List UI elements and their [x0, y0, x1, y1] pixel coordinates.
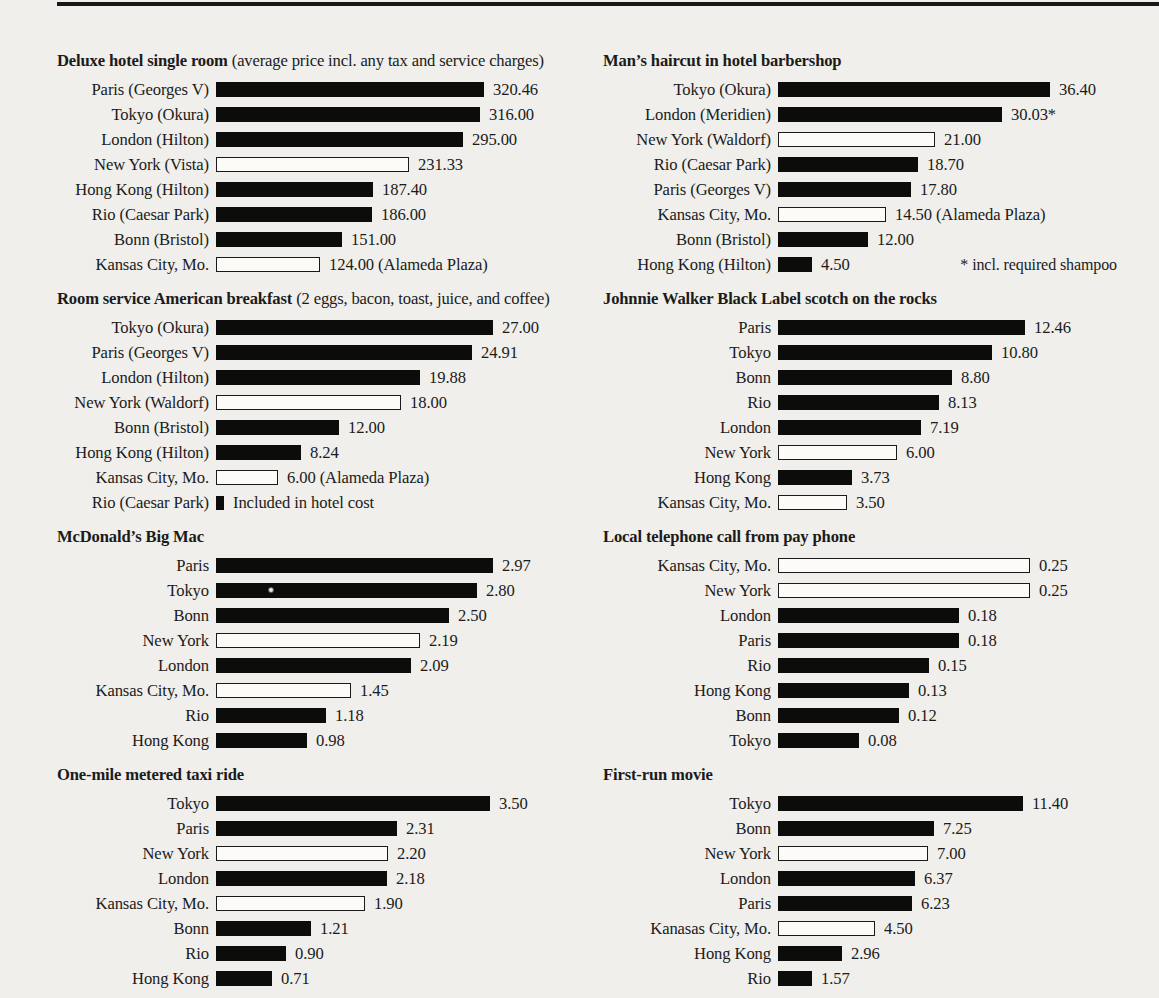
bar-row: London0.18	[603, 603, 1159, 628]
bar-open	[216, 846, 388, 861]
value-label: 0.25	[1039, 556, 1068, 576]
row-label: Paris	[603, 894, 771, 914]
value-label: 21.00	[944, 130, 981, 150]
bar-row: Hong Kong (Hilton)4.50* incl. required s…	[603, 252, 1159, 277]
value-label: 2.09	[420, 656, 449, 676]
value-label: 1.57	[821, 969, 850, 989]
bar-filled	[216, 107, 480, 122]
value-label: 0.13	[918, 681, 947, 701]
value-label: 18.70	[927, 155, 964, 175]
value-label: 151.00	[351, 230, 396, 250]
bar-row: Paris6.23	[603, 891, 1159, 916]
value-label: 3.73	[861, 468, 890, 488]
bar-filled	[216, 558, 493, 573]
row-label: New York (Vista)	[57, 155, 209, 175]
row-label: Tokyo	[603, 343, 771, 363]
value-label: 14.50 (Alameda Plaza)	[895, 205, 1045, 225]
bar-filled	[778, 708, 899, 723]
page-top-rule	[57, 2, 1159, 6]
value-label: 316.00	[489, 105, 534, 125]
value-label: 187.40	[382, 180, 427, 200]
bar-filled	[216, 946, 286, 961]
bar-open	[216, 157, 409, 172]
row-label: London	[603, 418, 771, 438]
row-label: Bonn (Bristol)	[57, 230, 209, 250]
row-label: Kansas City, Mo.	[603, 493, 771, 513]
chart-first-run-movie: First-run movieTokyo11.40Bonn7.25New Yor…	[603, 764, 1159, 991]
row-label: Tokyo	[603, 794, 771, 814]
bar-row: New York (Waldorf)18.00	[57, 390, 575, 415]
value-label: 18.00	[410, 393, 447, 413]
row-label: Rio	[603, 969, 771, 989]
value-label: 30.03*	[1011, 105, 1056, 125]
bar-filled	[778, 658, 929, 673]
bar-row: Tokyo3.50	[57, 791, 575, 816]
bar-row: London7.19	[603, 415, 1159, 440]
bar-filled	[216, 733, 307, 748]
row-label: Kansas City, Mo.	[57, 681, 209, 701]
bar-row: Bonn7.25	[603, 816, 1159, 841]
value-label: 3.50	[499, 794, 528, 814]
value-label: 1.21	[320, 919, 349, 939]
bar-row: Bonn2.50	[57, 603, 575, 628]
row-label: Rio	[57, 706, 209, 726]
row-label: Kansas City, Mo.	[603, 556, 771, 576]
row-label: London	[603, 869, 771, 889]
value-label: 36.40	[1059, 80, 1096, 100]
bar-filled	[778, 821, 934, 836]
value-label: 2.80	[486, 581, 515, 601]
row-label: New York (Waldorf)	[57, 393, 209, 413]
value-label: 0.18	[968, 631, 997, 651]
bar-open	[778, 846, 928, 861]
bar-filled	[216, 370, 420, 385]
row-label: Hong Kong (Hilton)	[603, 255, 771, 275]
value-label: 0.90	[295, 944, 324, 964]
bar-filled	[778, 971, 812, 986]
charts-grid: Deluxe hotel single room (average price …	[57, 50, 1159, 998]
row-label: Kanasas City, Mo.	[603, 919, 771, 939]
chart-title-text: McDonald’s Big Mac	[57, 527, 204, 546]
bar-row: Kansas City, Mo.14.50 (Alameda Plaza)	[603, 202, 1159, 227]
row-label: Tokyo (Okura)	[57, 105, 209, 125]
row-label: Kansas City, Mo.	[57, 255, 209, 275]
row-label: Paris	[57, 819, 209, 839]
bar-row: Tokyo2.80	[57, 578, 575, 603]
bar-row: Rio8.13	[603, 390, 1159, 415]
value-label: 19.88	[429, 368, 466, 388]
value-label: 6.00 (Alameda Plaza)	[287, 468, 429, 488]
value-label: 6.23	[921, 894, 950, 914]
bar-row: Hong Kong (Hilton)8.24	[57, 440, 575, 465]
chart-man-s-haircut-in-hotel-barbershop: Man’s haircut in hotel barbershopTokyo (…	[603, 50, 1159, 277]
value-label: 12.00	[877, 230, 914, 250]
row-label: Bonn (Bristol)	[603, 230, 771, 250]
bar-row: Bonn (Bristol)12.00	[603, 227, 1159, 252]
chart-one-mile-metered-taxi-ride: One-mile metered taxi rideTokyo3.50Paris…	[57, 764, 575, 991]
chart-deluxe-hotel-single-room: Deluxe hotel single room (average price …	[57, 50, 575, 277]
bar-row: New York6.00	[603, 440, 1159, 465]
value-label: 0.18	[968, 606, 997, 626]
value-label: 0.12	[908, 706, 937, 726]
value-label: 2.18	[396, 869, 425, 889]
bar-filled	[216, 821, 397, 836]
chart-room-service-american-breakfast: Room service American breakfast (2 eggs,…	[57, 288, 575, 515]
chart-title: Local telephone call from pay phone	[603, 526, 1159, 548]
row-label: Rio (Caesar Park)	[57, 493, 209, 513]
value-label: Included in hotel cost	[233, 493, 374, 513]
bar-row: Bonn0.12	[603, 703, 1159, 728]
chart-title: Room service American breakfast (2 eggs,…	[57, 288, 575, 310]
chart-mcdonald-s-big-mac: McDonald’s Big MacParis2.97Tokyo2.80Bonn…	[57, 526, 575, 753]
bar-row: New York0.25	[603, 578, 1159, 603]
value-label: 6.37	[924, 869, 953, 889]
bar-filled	[778, 896, 912, 911]
scan-artifact-dot	[268, 587, 274, 593]
row-label: Kansas City, Mo.	[603, 205, 771, 225]
value-label: 2.31	[406, 819, 435, 839]
bar-filled	[216, 182, 373, 197]
bar-row: New York (Vista)231.33	[57, 152, 575, 177]
bar-row: Tokyo (Okura)27.00	[57, 315, 575, 340]
bar-open	[216, 257, 320, 272]
value-label: 2.20	[397, 844, 426, 864]
row-label: Paris	[57, 556, 209, 576]
bar-row: Kansas City, Mo.6.00 (Alameda Plaza)	[57, 465, 575, 490]
bar-row: Paris (Georges V)320.46	[57, 77, 575, 102]
